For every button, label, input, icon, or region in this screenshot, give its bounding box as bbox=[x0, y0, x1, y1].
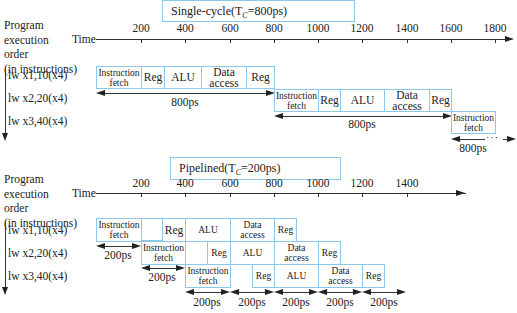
tick-label: 1400 bbox=[396, 177, 419, 189]
arrow-right-icon bbox=[132, 243, 141, 249]
order-label-line: order bbox=[4, 47, 77, 62]
axis-tick bbox=[495, 39, 496, 43]
time-axis bbox=[96, 193, 466, 194]
duration-label: 200ps bbox=[326, 296, 353, 308]
order-label-line: execution bbox=[4, 33, 77, 48]
single-cycle-title: Single-cycle(TC=800ps) bbox=[162, 0, 355, 22]
axis-tick bbox=[318, 39, 319, 43]
time-label: Time bbox=[72, 186, 96, 200]
duration-arrow bbox=[278, 116, 448, 117]
axis-tick bbox=[451, 39, 452, 43]
instruction-label: lw x3,40(x4) bbox=[8, 269, 67, 283]
arrow-left-icon bbox=[96, 90, 105, 96]
stage-alu: ALU bbox=[274, 264, 319, 288]
duration-label: 200ps bbox=[282, 296, 309, 308]
stage-instruction-fetch: Instructionfetch bbox=[96, 218, 142, 242]
arrow-right-icon bbox=[309, 289, 318, 295]
title-text-rest: =800ps) bbox=[248, 4, 287, 18]
stage-text: Instruction bbox=[98, 220, 139, 230]
instruction-label: lw x3,40(x4) bbox=[8, 114, 67, 128]
axis-tick bbox=[318, 193, 319, 197]
stage-data-access: Dataaccess bbox=[274, 241, 319, 265]
stage-text: fetch bbox=[98, 78, 139, 88]
axis-tick bbox=[141, 193, 142, 197]
stage-reg: Reg bbox=[207, 241, 231, 265]
tick-label: 800 bbox=[265, 177, 282, 189]
arrow-left-icon bbox=[274, 113, 283, 119]
arrow-right-icon bbox=[221, 289, 230, 295]
time-label: Time bbox=[72, 32, 96, 46]
stage-text: access bbox=[392, 101, 421, 112]
stage-text: Instruction bbox=[143, 243, 184, 253]
axis-tick bbox=[407, 193, 408, 197]
axis-tick bbox=[185, 193, 186, 197]
order-arrow bbox=[5, 68, 6, 134]
arrow-right-icon bbox=[265, 289, 274, 295]
tick-label: 1200 bbox=[351, 177, 374, 189]
stage-text: Instruction bbox=[453, 113, 494, 123]
axis-tick bbox=[362, 193, 363, 197]
duration-label: 800ps bbox=[171, 96, 198, 108]
instruction-label: lw x2,20(x4) bbox=[8, 246, 67, 260]
axis-tick bbox=[274, 39, 275, 43]
duration-label: 200ps bbox=[148, 271, 175, 283]
down-arrow-icon bbox=[2, 133, 8, 141]
stage-text: access bbox=[240, 230, 264, 240]
stage-reg: Reg bbox=[362, 264, 385, 288]
arrow-right-icon bbox=[176, 265, 185, 271]
tick-label: 600 bbox=[221, 177, 238, 189]
stage-reg: Reg bbox=[141, 66, 165, 89]
axis-tick bbox=[141, 39, 142, 43]
arrow-right-icon bbox=[507, 136, 516, 142]
stage-reg: Reg bbox=[318, 89, 341, 112]
stage-reg: Reg bbox=[162, 218, 186, 242]
axis-tick bbox=[407, 39, 408, 43]
stage-text: fetch bbox=[143, 253, 184, 263]
title-text-rest: =200ps) bbox=[241, 161, 280, 175]
axis-tick bbox=[362, 39, 363, 43]
order-label-line: execution bbox=[4, 187, 77, 202]
instruction-label: lw x1,10(x4) bbox=[8, 223, 67, 237]
axis-arrow-icon bbox=[456, 190, 465, 196]
tick-label: 1400 bbox=[396, 22, 419, 34]
stage-text: Data bbox=[240, 220, 264, 230]
title-text: Pipelined(T bbox=[179, 161, 236, 175]
tick-label: 400 bbox=[176, 177, 193, 189]
idle-gap bbox=[185, 241, 208, 265]
stage-instruction-fetch: Instructionfetch bbox=[96, 66, 142, 89]
title-text: Single-cycle(T bbox=[171, 4, 242, 18]
stage-text: Instruction bbox=[187, 266, 228, 276]
instruction-label: lw x1,10(x4) bbox=[8, 68, 67, 82]
down-arrow-icon bbox=[2, 287, 8, 295]
stage-alu: ALU bbox=[185, 218, 231, 242]
stage-text: Instruction bbox=[276, 91, 317, 101]
tick-label: 1200 bbox=[351, 22, 374, 34]
stage-text: Data bbox=[284, 243, 308, 253]
duration-label: 800ps bbox=[348, 118, 375, 130]
tick-label: 600 bbox=[221, 22, 238, 34]
tick-label: 1000 bbox=[307, 177, 330, 189]
arrow-left-icon bbox=[318, 289, 327, 295]
duration-label: 200ps bbox=[193, 296, 220, 308]
tick-label: 1800 bbox=[484, 22, 507, 34]
axis-arrow-icon bbox=[505, 36, 514, 42]
stage-instruction-fetch: Instructionfetch bbox=[451, 111, 496, 134]
stage-instruction-fetch: Instructionfetch bbox=[274, 89, 319, 112]
stage-instruction-fetch: Instructionfetch bbox=[185, 264, 231, 288]
stage-text: access bbox=[209, 78, 238, 89]
stage-text: access bbox=[284, 253, 308, 263]
duration-label: 200ps bbox=[370, 296, 397, 308]
stage-text: fetch bbox=[453, 123, 494, 133]
stage-data-access: Dataaccess bbox=[230, 218, 275, 242]
tick-label: 1600 bbox=[440, 22, 463, 34]
order-label-line: order bbox=[4, 201, 77, 216]
arrow-right-icon bbox=[397, 289, 406, 295]
arrow-right-icon bbox=[353, 289, 362, 295]
axis-tick bbox=[274, 193, 275, 197]
time-axis bbox=[96, 39, 506, 40]
stage-reg: Reg bbox=[246, 66, 275, 89]
duration-label: 200ps bbox=[238, 296, 265, 308]
axis-tick bbox=[230, 39, 231, 43]
stage-alu: ALU bbox=[164, 66, 202, 89]
stage-alu: ALU bbox=[340, 89, 385, 112]
